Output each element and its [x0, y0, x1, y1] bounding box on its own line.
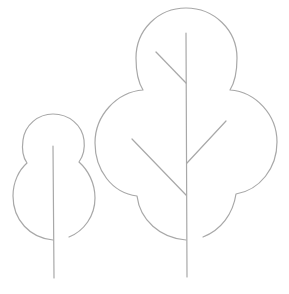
small-tree-trunk [53, 146, 54, 278]
large-tree-branch-lower-left [132, 139, 186, 195]
small-tree-icon [13, 114, 95, 278]
trees-icon [0, 0, 289, 294]
large-tree-icon [95, 8, 277, 277]
trees-illustration [0, 0, 289, 294]
large-tree-branch-upper-left [156, 52, 186, 83]
large-tree-branch-right [187, 121, 226, 163]
